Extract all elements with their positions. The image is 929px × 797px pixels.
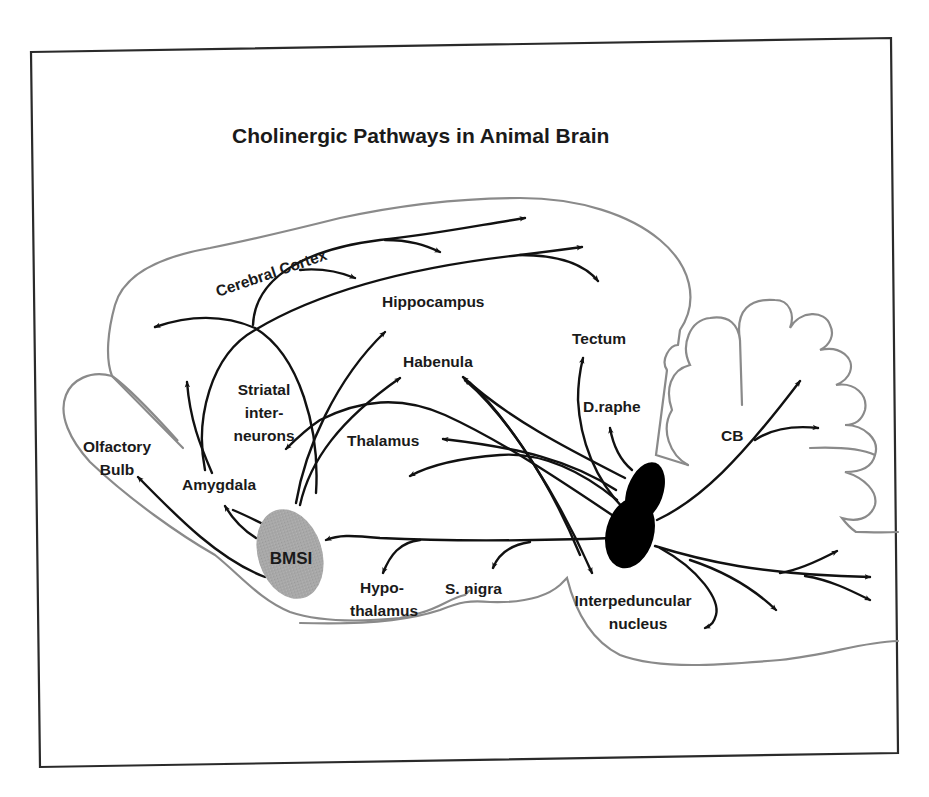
cerebellum-folium-line [740, 340, 742, 405]
label-tectum: Tectum [572, 330, 626, 347]
pathway-thalamus-lower [410, 455, 617, 500]
label-hippocampus: Hippocampus [382, 293, 484, 310]
label-s-nigra: S. nigra [445, 580, 502, 597]
label-interpeduncular-line1: Interpeduncular [574, 592, 691, 609]
pathway-caudal-mid [690, 560, 776, 610]
pathway-to-cb [657, 381, 800, 520]
label-interpeduncular-line2: nucleus [609, 615, 668, 632]
pathway-to-striatal [286, 402, 612, 515]
cerebellum-outline [667, 300, 898, 533]
bmsi-label: BMSI [270, 549, 313, 568]
label-striatal-line2: inter- [245, 404, 284, 421]
pathway-caudal-down [805, 576, 870, 600]
label-amygdala: Amygdala [182, 476, 256, 493]
pathway-to-draphe [610, 428, 632, 470]
label-hypothalamus-line1: Hypo- [360, 579, 404, 596]
pathway-to-thalamus [443, 439, 616, 490]
pathway-habenula-to-ipn-1 [470, 383, 592, 573]
label-habenula: Habenula [403, 353, 473, 370]
label-thalamus: Thalamus [347, 432, 419, 449]
pathway-cb-branch [755, 427, 818, 440]
label-olfactory-line1: Olfactory [83, 438, 151, 455]
cerebellum-folium-line [810, 448, 875, 455]
diagram-title: Cholinergic Pathways in Animal Brain [232, 124, 609, 147]
label-hypothalamus-line2: thalamus [350, 602, 418, 619]
label-striatal-line3: neurons [233, 427, 294, 444]
pathway-to-s-nigra [493, 542, 530, 568]
brainstem-cholinergic-nucleus [598, 457, 673, 574]
label-cb: CB [721, 427, 743, 444]
label-d-raphe: D.raphe [583, 398, 641, 415]
cholinergic-pathways-diagram: Cholinergic Pathways in Animal Brain [0, 0, 929, 797]
label-olfactory-line2: Bulb [100, 461, 134, 478]
pathway-caudal-up [780, 551, 837, 573]
label-striatal-line1: Striatal [238, 381, 291, 398]
